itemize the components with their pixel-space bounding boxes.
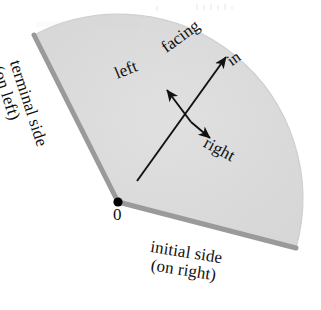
vertex-label: 0: [113, 206, 122, 224]
angle-diagram: 0 facing in left right terminal side (on…: [0, 0, 321, 310]
